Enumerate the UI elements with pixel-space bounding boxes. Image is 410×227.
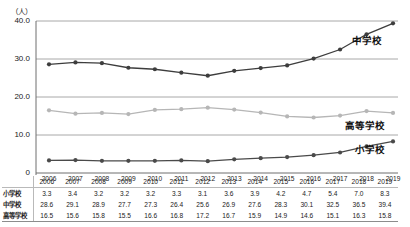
table-cell: 17.2 — [190, 210, 216, 222]
table-column-header: 2016 — [294, 176, 320, 188]
table-bottom-rule — [2, 221, 396, 222]
data-point — [391, 111, 395, 115]
table-cell: 8.3 — [372, 188, 398, 200]
data-point — [364, 109, 368, 113]
table-cell: 29.1 — [60, 199, 86, 210]
table-cell: 15.5 — [112, 210, 138, 222]
table-cell: 4.2 — [268, 188, 294, 200]
data-point — [179, 158, 183, 162]
table-cell: 16.6 — [138, 210, 164, 222]
table-cell: 30.1 — [294, 199, 320, 210]
table-cell: 39.4 — [372, 199, 398, 210]
table-cell: 5.4 — [320, 188, 346, 200]
table-row-label: 中学校 — [2, 199, 34, 210]
table-row: 小学校3.33.43.23.23.23.33.13.63.94.24.75.47… — [2, 188, 398, 200]
table-corner-cell — [2, 176, 34, 188]
table-cell: 16.7 — [216, 210, 242, 222]
data-point — [73, 60, 77, 64]
table-cell: 3.6 — [216, 188, 242, 200]
table-cell: 3.4 — [60, 188, 86, 200]
table-cell: 15.6 — [60, 210, 86, 222]
table-cell: 15.1 — [320, 210, 346, 222]
table-cell: 28.6 — [34, 199, 60, 210]
table-cell: 7.0 — [346, 188, 372, 200]
y-axis-tick-label: 10.0 — [6, 130, 30, 139]
data-point — [338, 150, 342, 154]
data-point — [126, 159, 130, 163]
data-point — [338, 114, 342, 118]
data-point — [232, 69, 236, 73]
table-column-header: 2011 — [164, 176, 190, 188]
data-point — [100, 61, 104, 65]
table-column-header: 2017 — [320, 176, 346, 188]
table-cell: 3.2 — [138, 188, 164, 200]
data-point — [259, 66, 263, 70]
series-label-shogakko: 小学校 — [355, 142, 385, 156]
table-cell: 16.5 — [34, 210, 60, 222]
table-column-header: 2018 — [346, 176, 372, 188]
data-point — [391, 139, 395, 143]
y-axis-tick-label: 30.0 — [6, 54, 30, 63]
table-cell: 15.8 — [372, 210, 398, 222]
data-point — [259, 156, 263, 160]
data-point — [312, 115, 316, 119]
table-column-header: 2014 — [242, 176, 268, 188]
table-row-label: 高等学校 — [2, 210, 34, 222]
table-cell: 3.3 — [164, 188, 190, 200]
data-point — [73, 112, 77, 116]
table-cell: 26.4 — [164, 199, 190, 210]
table-cell: 36.5 — [346, 199, 372, 210]
table-cell: 14.9 — [268, 210, 294, 222]
data-point — [47, 62, 51, 66]
table-row-label: 小学校 — [2, 188, 34, 200]
table-cell: 15.9 — [242, 210, 268, 222]
table-cell: 28.9 — [86, 199, 112, 210]
table-cell: 3.9 — [242, 188, 268, 200]
data-point — [73, 158, 77, 162]
table-column-header: 2013 — [216, 176, 242, 188]
table-column-header: 2007 — [60, 176, 86, 188]
series-label-chugakko: 中学校 — [352, 33, 382, 47]
table-cell: 15.8 — [86, 210, 112, 222]
data-point — [153, 108, 157, 112]
data-point — [100, 111, 104, 115]
chart-figure: （人） 40.030.020.010.002006200720082009201… — [0, 0, 410, 227]
table-cell: 32.5 — [320, 199, 346, 210]
table-header-row: 2006200720082009201020112012201320142015… — [2, 176, 398, 188]
data-point — [206, 159, 210, 163]
data-point — [312, 153, 316, 157]
table-cell: 3.1 — [190, 188, 216, 200]
table-column-header: 2015 — [268, 176, 294, 188]
table-cell: 16.8 — [164, 210, 190, 222]
table-row: 中学校28.629.128.927.727.326.425.626.927.62… — [2, 199, 398, 210]
data-point — [338, 47, 342, 51]
table-cell: 14.6 — [294, 210, 320, 222]
table-row: 高等学校16.515.615.815.516.616.817.216.715.9… — [2, 210, 398, 222]
table-column-header: 2010 — [138, 176, 164, 188]
data-point — [153, 67, 157, 71]
data-point — [100, 159, 104, 163]
data-point — [179, 107, 183, 111]
data-point — [206, 74, 210, 78]
table-cell: 4.7 — [294, 188, 320, 200]
table-column-header: 2009 — [112, 176, 138, 188]
table-column-header: 2008 — [86, 176, 112, 188]
data-point — [206, 106, 210, 110]
series-label-kotogakko: 高等学校 — [345, 118, 385, 132]
y-axis-tick-label: 20.0 — [6, 92, 30, 101]
data-point — [47, 158, 51, 162]
data-point — [126, 112, 130, 116]
line-chart: （人） 40.030.020.010.002006200720082009201… — [0, 0, 410, 175]
data-point — [285, 155, 289, 159]
table-cell: 27.3 — [138, 199, 164, 210]
table-cell: 27.6 — [242, 199, 268, 210]
data-point — [312, 57, 316, 61]
data-point — [232, 107, 236, 111]
data-point — [259, 110, 263, 114]
table-column-header: 2006 — [34, 176, 60, 188]
table-column-header: 2019 — [372, 176, 398, 188]
data-point — [285, 63, 289, 67]
table-cell: 16.3 — [346, 210, 372, 222]
table-body: 小学校3.33.43.23.23.23.33.13.63.94.24.75.47… — [2, 188, 398, 222]
table-cell: 26.9 — [216, 199, 242, 210]
